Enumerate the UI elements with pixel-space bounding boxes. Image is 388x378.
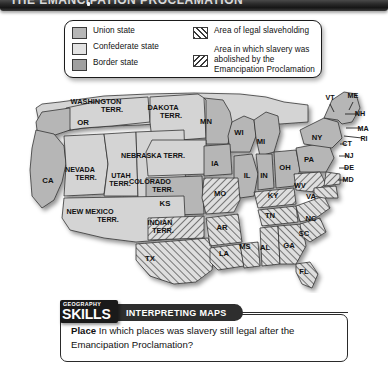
caption-question-body: In which places was slavery still legal … bbox=[71, 325, 294, 350]
border-state-swatch-icon bbox=[72, 59, 87, 71]
us-map-1863: WASHINGTONTERR.ORCANEVADATERR.UTAHTERR.C… bbox=[8, 78, 380, 293]
interpreting-maps-label: INTERPRETING MAPS bbox=[126, 308, 227, 318]
map-label-al: AL bbox=[260, 243, 270, 252]
map-label-mo: MO bbox=[214, 189, 226, 198]
legend-label-union: Union state bbox=[93, 26, 135, 36]
geography-skills-caption: INTERPRETING MAPS GEOGRAPHY SKILLS Place… bbox=[60, 300, 348, 362]
map-label-indian2: TERR. bbox=[152, 226, 174, 235]
map-label-nebraska: NEBRASKA TERR. bbox=[121, 151, 185, 160]
map-label-pa: PA bbox=[304, 155, 315, 164]
legend-item-confederate-state: Confederate state bbox=[72, 42, 192, 55]
map-label-ny: NY bbox=[312, 133, 323, 142]
map-label-mi: MI bbox=[257, 137, 265, 146]
geography-skills-badge: GEOGRAPHY SKILLS bbox=[60, 300, 118, 323]
map-label-nc: NC bbox=[306, 214, 317, 223]
legend-item-abolished: Area in which slavery was abolished by t… bbox=[193, 45, 319, 75]
map-label-vt: VT bbox=[325, 93, 335, 102]
map-legend: Union state Confederate state Border sta… bbox=[64, 20, 322, 78]
map-label-ut-terr2: TERR. bbox=[109, 179, 131, 188]
caption-question-lead: Place bbox=[71, 325, 96, 336]
confederate-state-swatch-icon bbox=[72, 43, 87, 55]
legend-label-abolished: Area in which slavery was abolished by t… bbox=[214, 45, 319, 75]
map-label-ga: GA bbox=[283, 241, 295, 250]
interpreting-maps-tab: INTERPRETING MAPS bbox=[118, 304, 243, 321]
page-banner: THE EMANCIPATION PROCLAMATION bbox=[0, 0, 388, 11]
map-label-me: ME bbox=[348, 91, 359, 100]
map-label-wa-terr2: TERR. bbox=[101, 105, 123, 114]
badge-skills-label: SKILLS bbox=[62, 307, 111, 321]
map-label-ia: IA bbox=[211, 159, 219, 168]
state-maryland bbox=[324, 172, 340, 186]
legend-label-border: Border state bbox=[93, 58, 138, 68]
map-label-la: LA bbox=[219, 249, 230, 258]
map-label-nj: NJ bbox=[344, 151, 353, 160]
map-label-mn: MN bbox=[200, 117, 212, 126]
map-label-or: OR bbox=[77, 118, 89, 127]
map-label-wi: WI bbox=[234, 128, 243, 137]
state-california bbox=[30, 130, 66, 208]
map-label-ca: CA bbox=[42, 176, 54, 185]
legend-item-border-state: Border state bbox=[72, 58, 192, 71]
map-label-oh: OH bbox=[279, 163, 290, 172]
map-label-de: DE bbox=[344, 163, 354, 172]
map-label-va: VA bbox=[306, 192, 317, 201]
state-virginia bbox=[314, 186, 338, 198]
map-label-nh: NH bbox=[355, 109, 365, 118]
map-label-sc: SC bbox=[299, 229, 310, 238]
union-state-swatch-icon bbox=[72, 27, 87, 39]
legend-item-legal-slaveholding: Area of legal slaveholding bbox=[193, 26, 319, 39]
map-label-co-terr2: TERR. bbox=[152, 185, 174, 194]
map-label-ky: KY bbox=[268, 191, 279, 200]
map-label-wv: WV bbox=[294, 182, 306, 189]
banner-dot bbox=[87, 2, 90, 6]
state-michigan bbox=[254, 112, 280, 156]
legend-item-union-state: Union state bbox=[72, 26, 192, 39]
map-label-in: IN bbox=[260, 171, 268, 180]
map-label-ks: KS bbox=[160, 199, 171, 208]
legend-column-right: Area of legal slaveholding Area in which… bbox=[193, 26, 319, 78]
map-label-md: MD bbox=[342, 175, 353, 184]
abolished-hatch-icon bbox=[193, 55, 208, 67]
map-label-nv-terr2: TERR. bbox=[75, 173, 97, 182]
map-label-fl: FL bbox=[299, 267, 309, 276]
map-label-ri: RI bbox=[361, 135, 368, 142]
map-label-tn: TN bbox=[265, 211, 275, 220]
map-label-ma: MA bbox=[357, 124, 368, 133]
legend-label-confederate: Confederate state bbox=[93, 42, 159, 52]
map-label-ar: AR bbox=[217, 223, 228, 232]
legend-column-left: Union state Confederate state Border sta… bbox=[72, 26, 192, 74]
legend-label-legal-slaveholding: Area of legal slaveholding bbox=[214, 26, 309, 36]
map-container: WASHINGTONTERR.ORCANEVADATERR.UTAHTERR.C… bbox=[8, 78, 380, 293]
map-label-il: IL bbox=[244, 171, 251, 180]
legal-slaveholding-hatch-icon bbox=[193, 27, 208, 39]
map-label-ct: CT bbox=[342, 139, 352, 148]
map-label-tx: TX bbox=[145, 254, 156, 263]
banner-title: THE EMANCIPATION PROCLAMATION bbox=[10, 0, 243, 7]
map-label-dakota2: TERR. bbox=[160, 111, 182, 120]
map-label-nm-terr2: TERR. bbox=[97, 215, 119, 224]
map-label-ms: MS bbox=[239, 242, 250, 251]
caption-question: Place In which places was slavery still … bbox=[71, 324, 339, 352]
